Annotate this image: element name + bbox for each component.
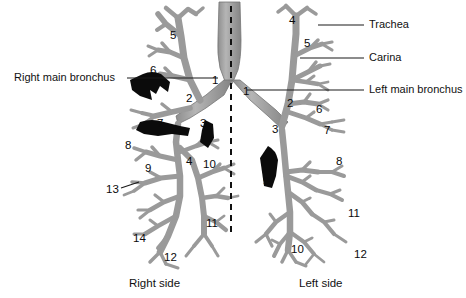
number-marker-r12: 12: [164, 252, 177, 264]
callout-carina-label: Carina: [369, 52, 401, 63]
number-marker-l11: 11: [348, 208, 360, 220]
number-marker-l6: 6: [316, 104, 322, 116]
number-marker-l4: 4: [289, 15, 295, 27]
number-marker-l8: 8: [336, 156, 342, 168]
callout-trachea-label: Trachea: [369, 19, 409, 30]
caption-left-side: Left side: [299, 277, 342, 289]
number-marker-l9: 9: [263, 176, 269, 188]
number-marker-l3: 3: [272, 124, 278, 136]
number-marker-l5: 5: [304, 38, 310, 50]
trachea-shape: [218, 2, 241, 84]
number-marker-r8: 8: [125, 140, 131, 152]
bronchial-tree-illustration: [0, 0, 466, 298]
callout-right-main-bronchus-label: Right main bronchus: [14, 72, 115, 83]
number-marker-l10: 10: [291, 244, 304, 256]
number-marker-r9: 9: [145, 163, 151, 175]
number-marker-r3: 3: [200, 118, 206, 130]
number-marker-r5: 5: [170, 30, 176, 42]
leader-number-13: [121, 182, 139, 188]
number-marker-r14: 14: [133, 233, 146, 245]
number-marker-r11: 11: [206, 218, 218, 230]
number-marker-l7: 7: [324, 125, 330, 137]
number-marker-r6: 6: [150, 65, 156, 77]
caption-right-side: Right side: [129, 277, 180, 289]
tumor-masses: [130, 72, 278, 188]
number-marker-r13: 13: [106, 184, 119, 196]
callout-left-main-bronchus-label: Left main bronchus: [369, 84, 463, 95]
bronchial-tree-figure: Right main bronchus Trachea Carina Left …: [0, 0, 466, 298]
number-marker-r1: 1: [212, 75, 218, 87]
number-marker-l2: 2: [287, 98, 293, 110]
left-lung-branches: [256, 6, 346, 266]
number-marker-l1: 1: [243, 86, 249, 98]
number-marker-r4: 4: [186, 156, 192, 168]
number-marker-r2: 2: [186, 93, 192, 105]
number-marker-r7: 7: [157, 118, 163, 130]
number-marker-r10: 10: [203, 159, 216, 171]
number-marker-l12: 12: [354, 249, 367, 261]
